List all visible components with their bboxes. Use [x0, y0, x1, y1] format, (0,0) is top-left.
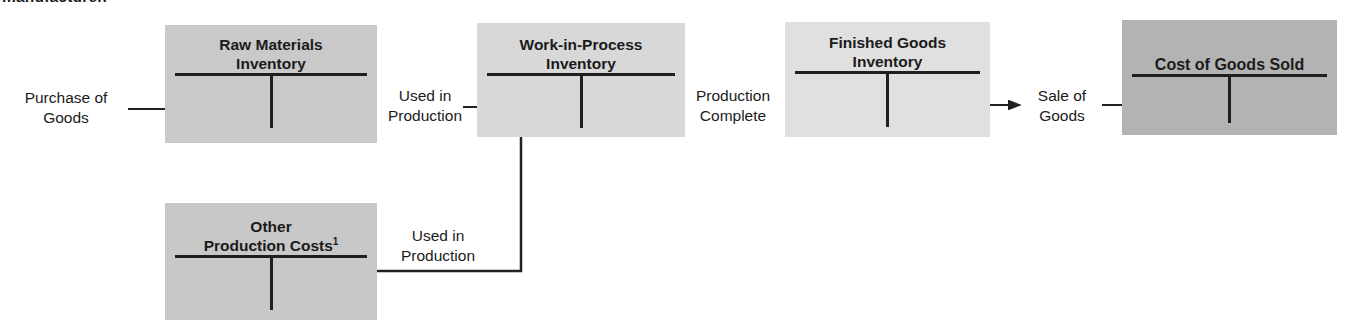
t-account-divider	[270, 76, 273, 128]
other-production-costs-account: Other Production Costs1	[165, 203, 377, 320]
t-account-divider	[580, 76, 583, 128]
t-account-divider	[270, 258, 273, 310]
flow-label-purchase-of-goods: Purchase of Goods	[10, 88, 122, 128]
finished-goods-inventory-account: Finished Goods Inventory	[785, 22, 990, 137]
flow-label-used-in-production-other: Used in Production	[382, 226, 494, 266]
flow-label-production-complete: Production Complete	[677, 86, 789, 126]
work-in-process-inventory-account: Work-in-Process Inventory	[477, 23, 685, 137]
account-title: Finished Goods Inventory	[785, 33, 990, 71]
cost-of-goods-sold-account: Cost of Goods Sold	[1122, 20, 1337, 135]
cost-flow-diagram: manufacturer. Raw Materials Inventory Wo…	[0, 0, 1348, 335]
account-title: Raw Materials Inventory	[165, 35, 377, 73]
clipped-caption: manufacturer.	[2, 0, 222, 7]
account-title: Cost of Goods Sold	[1122, 55, 1337, 74]
account-title: Other Production Costs1	[165, 217, 377, 255]
t-account-divider	[1228, 77, 1231, 123]
raw-materials-inventory-account: Raw Materials Inventory	[165, 25, 377, 143]
flow-label-used-in-production: Used in Production	[369, 86, 481, 126]
t-account-divider	[886, 74, 889, 127]
clipped-caption-text: manufacturer.	[2, 0, 222, 6]
account-title: Work-in-Process Inventory	[477, 35, 685, 73]
flow-label-sale-of-goods: Sale of Goods	[1006, 86, 1118, 126]
footnote-marker: 1	[333, 236, 339, 247]
